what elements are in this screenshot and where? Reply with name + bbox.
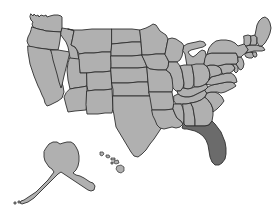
us-map-container [0,0,276,214]
state-hawaii-kauai[interactable] [100,152,104,156]
state-hawaii-molokai[interactable] [111,158,115,160]
state-hawaii-big-island[interactable] [116,165,124,173]
state-florida[interactable] [182,121,226,165]
state-new-mexico[interactable] [86,89,113,114]
state-rhode-island[interactable] [253,52,257,57]
state-wyoming[interactable] [79,52,111,73]
state-hawaii-oahu[interactable] [106,155,110,158]
state-minnesota[interactable] [140,24,168,55]
us-map-svg [0,0,276,214]
state-alaska[interactable] [20,142,95,204]
state-pennsylvania[interactable] [204,53,238,66]
state-hawaii-lanai[interactable] [111,162,113,164]
state-arizona[interactable] [64,86,87,112]
state-arkansas[interactable] [149,92,174,110]
state-hawaii-maui[interactable] [114,160,119,164]
state-kansas[interactable] [111,67,148,83]
state-nebraska[interactable] [111,55,147,68]
state-maine[interactable] [255,17,271,46]
state-wisconsin[interactable] [165,38,184,62]
alaska-aleutian-island-2 [14,202,16,204]
alaska-aleutian-island-1 [18,201,20,203]
state-south-dakota[interactable] [111,42,142,56]
state-oklahoma[interactable] [112,82,150,96]
state-colorado[interactable] [87,71,112,91]
